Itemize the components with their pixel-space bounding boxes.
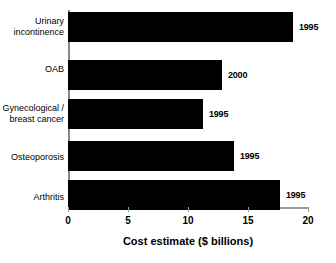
x-tick-mark-5 — [128, 207, 129, 212]
x-axis-title: Cost estimate ($ billions) — [0, 235, 336, 247]
category-label-gynecological-breast-cancer: Gynecological / breast cancer — [0, 103, 64, 125]
category-label-line2: incontinence — [0, 27, 64, 38]
x-axis-title-text: Cost estimate ($ billions) — [83, 235, 253, 247]
x-tick-label-10: 10 — [182, 215, 193, 226]
category-label-osteoporosis: Osteoporosis — [0, 152, 64, 163]
x-tick-mark-15 — [248, 207, 249, 212]
bar-value-label-urinary-incontinence: 1995 — [299, 22, 318, 32]
category-label-line1: Arthritis — [0, 192, 64, 203]
bar-chart: Urinary incontinence OAB Gynecological /… — [0, 0, 336, 263]
x-tick-label-15: 15 — [242, 215, 253, 226]
x-tick-label-20: 20 — [302, 215, 313, 226]
x-tick-label-0: 0 — [65, 215, 71, 226]
category-label-line1: OAB — [0, 64, 64, 75]
category-label-oab: OAB — [0, 64, 64, 75]
bar-value-label-gynecological-breast-cancer: 1995 — [209, 109, 228, 119]
bar-gynecological-breast-cancer — [68, 99, 203, 129]
category-label-line2: breast cancer — [0, 114, 64, 125]
bar-oab — [68, 60, 222, 90]
bar-urinary-incontinence — [68, 12, 293, 42]
bar-osteoporosis — [68, 141, 234, 171]
bar-value-label-arthritis: 1995 — [286, 190, 305, 200]
x-tick-label-5: 5 — [125, 215, 131, 226]
bar-value-label-osteoporosis: 1995 — [240, 151, 259, 161]
category-label-arthritis: Arthritis — [0, 192, 64, 203]
category-label-line1: Osteoporosis — [0, 152, 64, 163]
category-label-urinary-incontinence: Urinary incontinence — [0, 16, 64, 38]
bar-arthritis — [68, 180, 280, 210]
x-tick-mark-20 — [308, 207, 309, 212]
bar-value-label-oab: 2000 — [228, 70, 247, 80]
x-tick-mark-0 — [68, 207, 69, 212]
plot-area: 1995 2000 1995 1995 1995 — [68, 10, 308, 206]
category-label-line1: Urinary — [0, 16, 64, 27]
x-tick-mark-10 — [188, 207, 189, 212]
category-label-line1: Gynecological / — [0, 103, 64, 114]
